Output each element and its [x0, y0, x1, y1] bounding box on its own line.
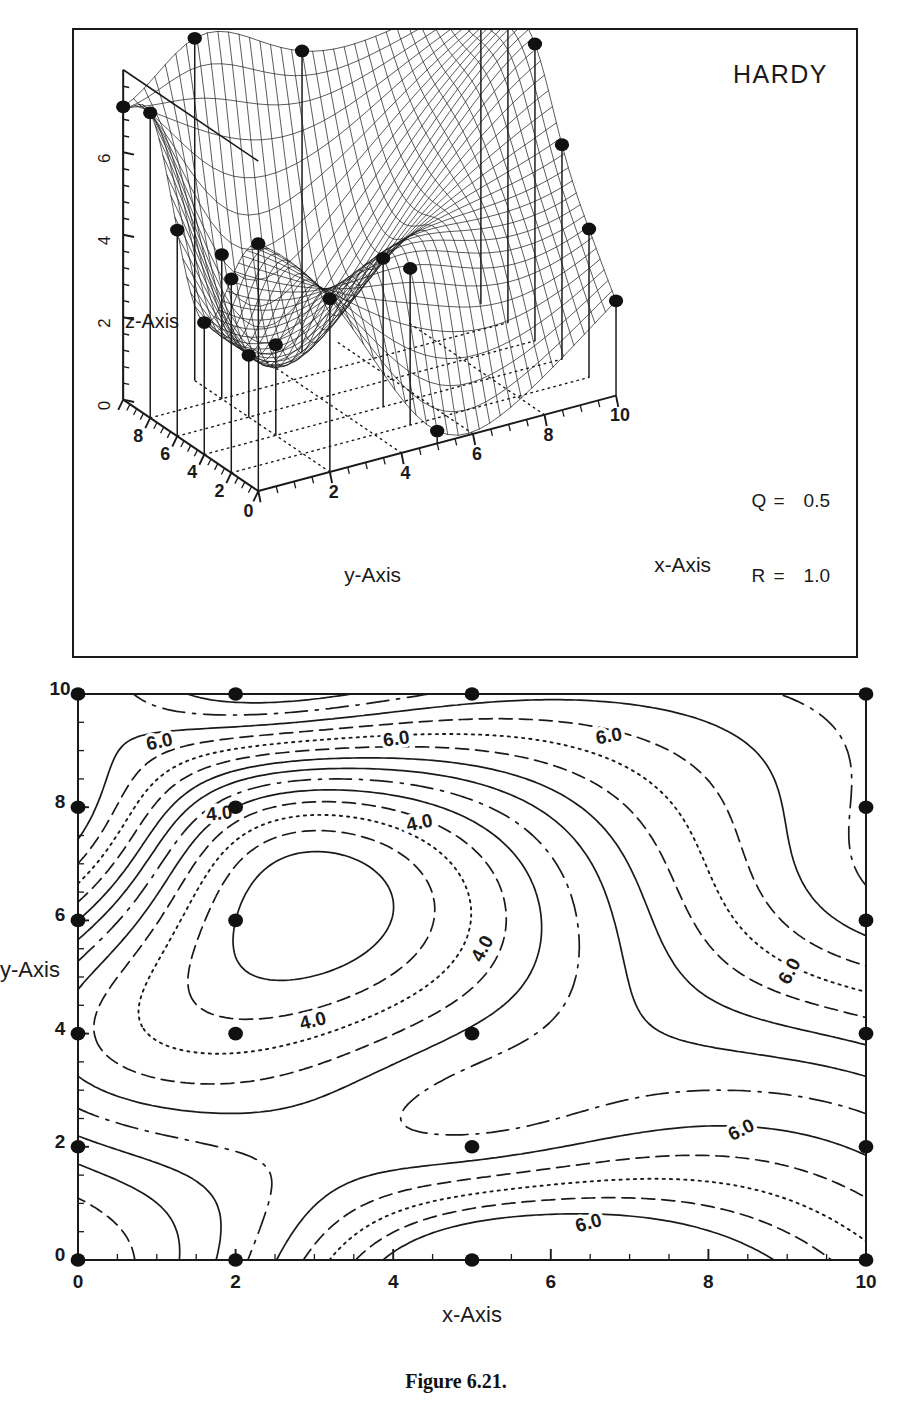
- surface-data-point: [403, 262, 417, 275]
- surface-data-point: [215, 248, 229, 261]
- svg-text:6: 6: [472, 444, 482, 464]
- contour-data-point: [859, 1140, 874, 1154]
- surface-data-point: [242, 349, 256, 362]
- contour-line: [78, 1164, 180, 1260]
- svg-text:4: 4: [95, 236, 114, 245]
- contour-data-point: [71, 800, 86, 814]
- contour-data-point: [228, 687, 243, 701]
- contour-data-point: [465, 1253, 480, 1267]
- surface-data-point: [528, 38, 542, 51]
- svg-text:y-Axis: y-Axis: [0, 957, 60, 982]
- contour-label: 4.0: [404, 809, 434, 835]
- contour-data-point: [71, 687, 86, 701]
- svg-text:2: 2: [95, 318, 114, 327]
- contour-line: [187, 694, 351, 703]
- svg-text:6: 6: [546, 1271, 557, 1292]
- contour-label: 6.0: [382, 726, 411, 750]
- surface-data-point: [251, 237, 265, 250]
- contour-line: [78, 1108, 272, 1260]
- svg-text:8: 8: [543, 425, 553, 445]
- surface-data-point: [197, 316, 211, 329]
- surface-data-point: [430, 425, 444, 438]
- surface-data-point: [376, 252, 390, 265]
- contour-data-point: [228, 1027, 243, 1041]
- surface-data-point: [582, 223, 596, 236]
- svg-text:10: 10: [610, 405, 630, 425]
- contour-data-point: [228, 800, 243, 814]
- svg-text:0: 0: [55, 1244, 66, 1265]
- contour-data-point: [71, 1027, 86, 1041]
- contour-data-point: [465, 687, 480, 701]
- svg-text:4: 4: [400, 463, 410, 483]
- svg-text:8: 8: [703, 1271, 714, 1292]
- contour-data-point: [71, 914, 86, 928]
- contour-line: [188, 831, 435, 1020]
- surface-data-point: [116, 100, 130, 113]
- svg-text:4: 4: [388, 1271, 399, 1292]
- contour-data-point: [228, 914, 243, 928]
- contour-data-point: [71, 1140, 86, 1154]
- contour-data-point: [859, 1253, 874, 1267]
- svg-text:8: 8: [55, 791, 66, 812]
- surface-data-point: [555, 138, 569, 151]
- surface-data-point: [269, 338, 283, 351]
- contour-label: 6.0: [594, 723, 624, 748]
- svg-text:0: 0: [243, 501, 253, 521]
- svg-text:6: 6: [55, 904, 66, 925]
- contour-plot-panel: 00224466881010x-Axisy-Axis6.06.06.06.06.…: [0, 672, 912, 1372]
- svg-text:y-Axis: y-Axis: [344, 563, 401, 586]
- contour-data-point: [859, 914, 874, 928]
- svg-text:8: 8: [133, 426, 143, 446]
- surface-data-point: [609, 294, 623, 307]
- contour-data-point: [465, 1140, 480, 1154]
- parameter-q: Q=0.5: [752, 488, 830, 513]
- contour-label: 6.0: [725, 1114, 758, 1144]
- surface-data-point: [224, 273, 238, 286]
- contour-line: [233, 852, 394, 981]
- figure-caption: Figure 6.21.: [0, 1370, 912, 1393]
- svg-text:6: 6: [95, 153, 114, 162]
- svg-text:10: 10: [49, 678, 70, 699]
- contour-line: [277, 1126, 867, 1260]
- contour-line: [94, 802, 507, 1084]
- contour-data-point: [228, 1253, 243, 1267]
- contour-data-point: [465, 1027, 480, 1041]
- surface-data-point: [143, 106, 157, 119]
- surface-data-point: [170, 224, 184, 237]
- svg-text:0: 0: [95, 401, 114, 410]
- contour-label: 4.0: [467, 932, 498, 965]
- svg-text:2: 2: [329, 482, 339, 502]
- svg-text:2: 2: [230, 1271, 241, 1292]
- svg-text:0: 0: [73, 1271, 84, 1292]
- contour-data-point: [71, 1253, 86, 1267]
- surface-data-point: [295, 45, 309, 58]
- svg-text:x-Axis: x-Axis: [654, 553, 711, 576]
- surface-data-point: [323, 292, 337, 305]
- contour-data-point: [859, 1027, 874, 1041]
- svg-text:10: 10: [855, 1271, 876, 1292]
- svg-text:2: 2: [55, 1131, 66, 1152]
- svg-text:x-Axis: x-Axis: [442, 1302, 502, 1327]
- svg-text:6: 6: [160, 444, 170, 464]
- contour-plot-svg: 00224466881010x-Axisy-Axis6.06.06.06.06.…: [0, 672, 912, 1372]
- svg-text:2: 2: [214, 481, 224, 501]
- svg-text:4: 4: [187, 462, 197, 482]
- contour-data-point: [859, 800, 874, 814]
- contour-line: [78, 1198, 135, 1260]
- parameter-annotations: Q=0.5 R=1.0: [752, 437, 830, 638]
- surface-data-point: [188, 32, 202, 45]
- surface-plot-svg: 0246z-Axis24680y-Axis246810x-Axis: [74, 30, 856, 656]
- contour-data-point: [859, 687, 874, 701]
- parameter-r: R=1.0: [752, 563, 830, 588]
- surface-plot-panel: HARDY 0246z-Axis24680y-Axis246810x-Axis …: [72, 28, 858, 658]
- svg-text:4: 4: [55, 1018, 66, 1039]
- contour-line: [78, 719, 866, 966]
- contour-line: [134, 694, 430, 715]
- svg-text:z-Axis: z-Axis: [125, 310, 179, 332]
